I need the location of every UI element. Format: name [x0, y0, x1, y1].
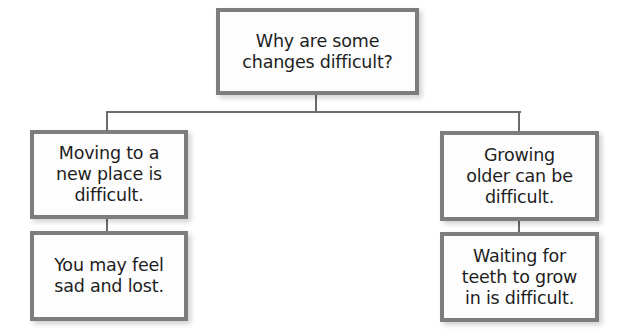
- left-main-idea-text: Moving to a new place is difficult.: [56, 143, 162, 206]
- right-detail-box: Waiting for teeth to grow in is difficul…: [440, 232, 599, 322]
- left-detail-text: You may feel sad and lost.: [54, 255, 164, 297]
- right-detail-text: Waiting for teeth to grow in is difficul…: [462, 246, 577, 309]
- concept-tree-diagram: Why are some changes difficult? Moving t…: [0, 0, 628, 333]
- right-branch-connector: [518, 111, 520, 132]
- root-question-text: Why are some changes difficult?: [242, 31, 392, 73]
- right-main-idea-box: Growing older can be difficult.: [440, 131, 599, 221]
- right-main-idea-text: Growing older can be difficult.: [466, 145, 573, 208]
- left-detail-connector: [106, 218, 108, 232]
- left-main-idea-box: Moving to a new place is difficult.: [30, 130, 188, 219]
- root-question-box: Why are some changes difficult?: [216, 8, 419, 95]
- branch-horizontal-connector: [106, 111, 521, 113]
- left-detail-box: You may feel sad and lost.: [30, 231, 188, 321]
- left-branch-connector: [106, 111, 108, 131]
